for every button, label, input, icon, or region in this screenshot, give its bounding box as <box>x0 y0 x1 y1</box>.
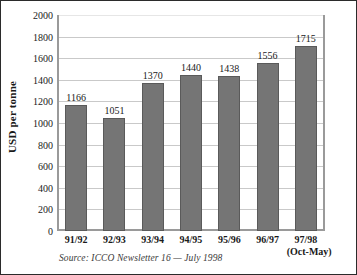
x-tick-label-group: 96/97 <box>248 233 286 246</box>
x-tick-label: 96/97 <box>248 233 286 246</box>
y-tick-label: 1400 <box>21 74 53 85</box>
bar-group: 1440 <box>172 15 210 231</box>
x-tick-label-group: 93/94 <box>134 233 172 246</box>
x-tick-label: 94/95 <box>172 233 210 246</box>
y-tick-label: 800 <box>21 139 53 150</box>
y-tick-label: 1000 <box>21 118 53 129</box>
x-tick-label: 95/96 <box>210 233 248 246</box>
bar <box>218 76 240 231</box>
bar-value-label: 1166 <box>66 92 86 103</box>
y-axis-title: USD per tonne <box>1 1 23 233</box>
bar-group: 1715 <box>287 15 325 231</box>
y-tick-label: 0 <box>21 226 53 237</box>
x-tick-label: 92/93 <box>95 233 133 246</box>
bar-group: 1556 <box>248 15 286 231</box>
bar-group: 1166 <box>57 15 95 231</box>
bar-value-label: 1556 <box>258 50 278 61</box>
chart-figure: USD per tonne 02004006008001000120014001… <box>0 0 357 275</box>
x-tick-label-group: 91/92 <box>57 233 95 246</box>
bar-group: 1051 <box>95 15 133 231</box>
source-note: Source: ICCO Newsletter 16 — July 1998 <box>59 253 222 263</box>
x-tick-label-group: 92/93 <box>95 233 133 246</box>
y-tick-label: 2000 <box>21 10 53 21</box>
x-tick-sublabel: (Oct-May) <box>287 246 325 258</box>
bar-value-label: 1715 <box>296 33 316 44</box>
bar-group: 1370 <box>134 15 172 231</box>
bar-group: 1438 <box>210 15 248 231</box>
bar-series: 1166105113701440143815561715 <box>57 15 325 231</box>
x-tick-label-group: 94/95 <box>172 233 210 246</box>
y-axis-tick-labels: 0200400600800100012001400160018002000 <box>21 15 53 231</box>
y-tick-label: 1600 <box>21 53 53 64</box>
bar-value-label: 1051 <box>104 105 124 116</box>
bar <box>180 75 202 231</box>
y-tick-label: 400 <box>21 182 53 193</box>
x-tick-label-group: 97/98(Oct-May) <box>287 233 325 258</box>
bar <box>65 105 87 231</box>
bar <box>142 83 164 231</box>
x-tick-label: 93/94 <box>134 233 172 246</box>
bar <box>257 63 279 231</box>
bar <box>295 46 317 231</box>
plot-area: 1166105113701440143815561715 <box>57 15 325 231</box>
bar-value-label: 1370 <box>143 70 163 81</box>
bar <box>103 118 125 232</box>
y-axis-title-text: USD per tonne <box>6 81 18 153</box>
x-tick-label-group: 95/96 <box>210 233 248 246</box>
bar-value-label: 1440 <box>181 62 201 73</box>
y-tick-label: 600 <box>21 161 53 172</box>
x-tick-label: 97/98 <box>287 233 325 246</box>
y-tick-label: 200 <box>21 204 53 215</box>
bar-value-label: 1438 <box>219 63 239 74</box>
y-tick-label: 1200 <box>21 96 53 107</box>
x-tick-label: 91/92 <box>57 233 95 246</box>
y-tick-label: 1800 <box>21 31 53 42</box>
